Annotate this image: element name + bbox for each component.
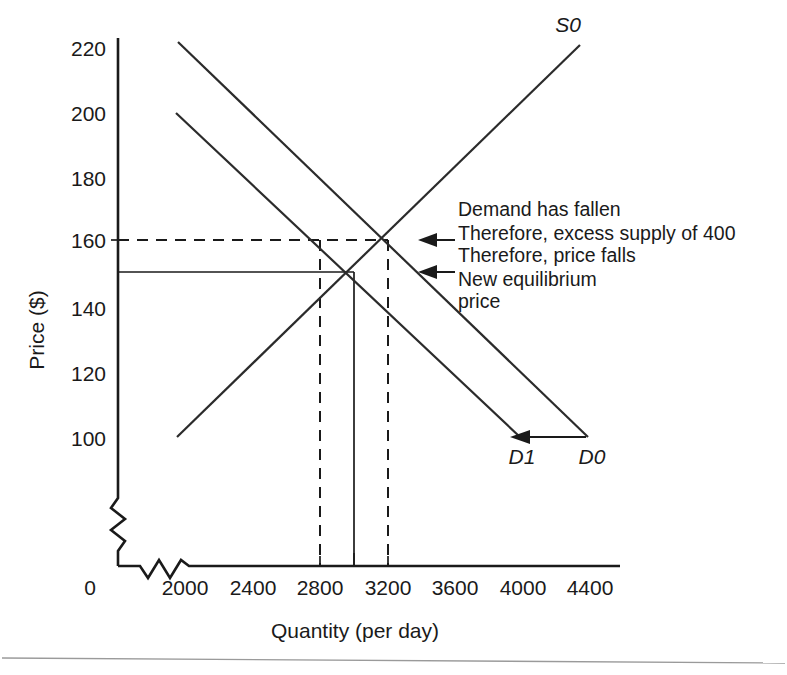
supply-demand-chart: 220 200 180 160 140 120 100 Price ($) 0 … xyxy=(0,0,787,675)
annotation-new-equilibrium: New equilibrium xyxy=(458,268,597,290)
x-tick-label-2400: 2400 xyxy=(230,576,277,599)
supply-curve-label-s0: S0 xyxy=(555,13,581,36)
annotation-demand-has-fallen: Demand has fallen xyxy=(458,198,621,220)
y-tick-label-200: 200 xyxy=(71,102,106,125)
demand-curve-label-d0: D0 xyxy=(579,445,606,468)
x-tick-label-3200: 3200 xyxy=(365,576,412,599)
y-tick-label-100: 100 xyxy=(71,427,106,450)
annotation-price-falls: Therefore, price falls xyxy=(458,244,636,266)
x-tick-label-4000: 4000 xyxy=(500,576,547,599)
demand-shift-arrow-head xyxy=(510,430,530,444)
x-tick-label-4400: 4400 xyxy=(567,576,614,599)
y-tick-label-180: 180 xyxy=(71,167,106,190)
y-tick-label-220: 220 xyxy=(71,37,106,60)
x-axis-title: Quantity (per day) xyxy=(271,619,439,642)
excess-supply-annotation-arrowhead xyxy=(418,233,437,247)
y-tick-label-140: 140 xyxy=(71,297,106,320)
x-tick-label-2000: 2000 xyxy=(162,576,209,599)
annotation-excess-supply: Therefore, excess supply of 400 xyxy=(458,222,736,244)
demand-curve-label-d1: D1 xyxy=(509,445,536,468)
bottom-divider xyxy=(2,658,785,663)
y-axis-title: Price ($) xyxy=(25,290,48,369)
x-tick-label-0: 0 xyxy=(84,576,96,599)
x-tick-label-2800: 2800 xyxy=(297,576,344,599)
x-tick-label-3600: 3600 xyxy=(432,576,479,599)
y-tick-label-120: 120 xyxy=(71,362,106,385)
y-axis xyxy=(111,38,125,566)
annotation-new-equilibrium-price: price xyxy=(458,290,500,312)
y-tick-label-160: 160 xyxy=(71,229,106,252)
